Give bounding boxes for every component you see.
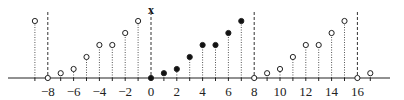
tick-label: 4 <box>199 84 206 99</box>
tick-label: 16 <box>351 84 365 99</box>
open-marker <box>136 18 141 23</box>
tick-label: 14 <box>325 84 339 99</box>
tick-label: −4 <box>92 84 106 99</box>
open-marker <box>355 75 360 80</box>
filled-marker <box>187 54 192 59</box>
open-marker <box>71 66 76 71</box>
filled-marker <box>200 42 205 47</box>
tick-label: −6 <box>67 84 81 99</box>
open-marker <box>342 18 347 23</box>
open-marker <box>45 75 50 80</box>
tick-label: 12 <box>299 84 312 99</box>
filled-marker <box>226 30 231 35</box>
tick-label: 0 <box>148 84 155 99</box>
stems <box>35 21 370 78</box>
open-marker <box>110 42 115 47</box>
open-marker <box>316 42 321 47</box>
filled-marker <box>213 42 218 47</box>
tick-label: 10 <box>274 84 287 99</box>
open-marker <box>252 75 257 80</box>
filled-marker <box>239 18 244 23</box>
tick-label: 2 <box>174 84 181 99</box>
x-ticks: −8−6−4−20246810121416 <box>35 78 370 99</box>
open-marker <box>303 42 308 47</box>
open-marker <box>84 54 89 59</box>
tick-label: 8 <box>251 84 258 99</box>
tick-label: −8 <box>41 84 55 99</box>
open-marker <box>265 71 270 76</box>
open-marker <box>368 71 373 76</box>
open-marker <box>290 54 295 59</box>
open-marker <box>58 71 63 76</box>
open-marker <box>123 30 128 35</box>
filled-marker <box>174 66 179 71</box>
filled-marker <box>148 75 153 80</box>
open-marker <box>97 42 102 47</box>
tick-label: −2 <box>118 84 132 99</box>
open-marker <box>32 18 37 23</box>
stem-plot: −8−6−4−20246810121416 x <box>0 0 404 100</box>
open-marker <box>277 66 282 71</box>
tick-label: 6 <box>225 84 232 99</box>
filled-marker <box>161 71 166 76</box>
open-marker <box>329 30 334 35</box>
y-axis-title: x <box>148 3 154 17</box>
